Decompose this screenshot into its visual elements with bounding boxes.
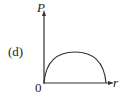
origin-label: 0 xyxy=(35,80,42,96)
x-axis-label: r xyxy=(113,75,118,91)
y-axis-label: P xyxy=(37,0,45,16)
panel-label: (d) xyxy=(8,44,23,60)
curve xyxy=(44,52,106,83)
